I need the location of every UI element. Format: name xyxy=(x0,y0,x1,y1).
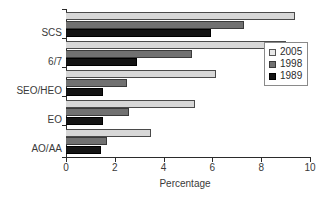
legend: 2005 1998 1989 xyxy=(264,42,308,86)
x-axis-tick-label: 0 xyxy=(63,163,69,173)
bar-1998-ao-aa[interactable] xyxy=(66,137,107,145)
bar-row xyxy=(66,29,310,37)
bar-1989-6-7[interactable] xyxy=(66,58,137,66)
bar-row xyxy=(66,108,310,116)
x-axis-title-text: Percentage xyxy=(159,179,210,189)
bar-chart: 0 2 4 6 8 10 Percentage SCS 6/7 SEO/HEO … xyxy=(0,0,328,199)
x-axis-tick-label: 8 xyxy=(258,163,264,173)
bar-2005-6-7[interactable] xyxy=(66,41,286,49)
bar-group xyxy=(0,10,328,39)
bar-row xyxy=(66,137,310,145)
bar-1989-eo[interactable] xyxy=(66,117,103,125)
legend-label-1989: 1989 xyxy=(280,71,302,81)
legend-swatch-icon-1998 xyxy=(269,61,276,68)
bar-row xyxy=(66,100,310,108)
legend-swatch-icon-1989 xyxy=(269,73,276,80)
x-axis-tick-label: 6 xyxy=(210,163,216,173)
bar-1998-seo-heo[interactable] xyxy=(66,79,127,87)
bar-1998-6-7[interactable] xyxy=(66,50,192,58)
bar-1989-seo-heo[interactable] xyxy=(66,88,103,96)
x-axis-tick-label: 2 xyxy=(112,163,118,173)
bar-row xyxy=(66,12,310,20)
legend-label-1998: 1998 xyxy=(280,59,302,69)
bar-row xyxy=(66,146,310,154)
x-axis-line xyxy=(66,157,311,158)
x-axis-tick-label: 4 xyxy=(161,163,167,173)
x-axis-tick-label: 10 xyxy=(304,163,315,173)
legend-item-2005[interactable]: 2005 xyxy=(269,46,302,58)
bar-group xyxy=(0,98,328,127)
bar-row xyxy=(66,88,310,96)
bar-1989-ao-aa[interactable] xyxy=(66,146,101,154)
legend-item-1989[interactable]: 1989 xyxy=(269,70,302,82)
bar-1989-scs[interactable] xyxy=(66,29,211,37)
bar-2005-scs[interactable] xyxy=(66,12,295,20)
bar-row xyxy=(66,117,310,125)
bar-row xyxy=(66,129,310,137)
bar-2005-ao-aa[interactable] xyxy=(66,129,151,137)
bar-2005-seo-heo[interactable] xyxy=(66,70,216,78)
bar-row xyxy=(66,21,310,29)
legend-item-1998[interactable]: 1998 xyxy=(269,58,302,70)
legend-label-2005: 2005 xyxy=(280,47,302,57)
x-axis-title: Percentage xyxy=(0,179,328,189)
bar-2005-eo[interactable] xyxy=(66,100,195,108)
legend-swatch-icon-2005 xyxy=(269,49,276,56)
bar-1998-eo[interactable] xyxy=(66,108,129,116)
bar-group xyxy=(0,127,328,156)
bar-1998-scs[interactable] xyxy=(66,21,244,29)
